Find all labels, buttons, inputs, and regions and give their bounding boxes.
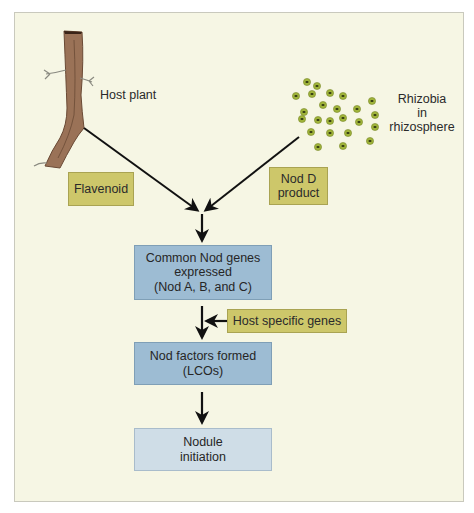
step-nod-factors-box: Nod factors formed (LCOs) [134,342,272,385]
step-common-nod-genes-box: Common Nod genes expressed (Nod A, B, an… [134,245,272,300]
rhizobia-bacteria-icon [292,78,378,150]
step-1-line-1: Common Nod genes [146,251,261,266]
step-2-line-1: Nod factors formed [150,349,256,364]
host-plant-label: Host plant [100,88,170,102]
flavenoid-box: Flavenoid [68,172,134,206]
step-nodule-initiation-box: Nodule initiation [134,428,272,471]
nod-d-label-line-2: product [278,186,320,200]
nod-d-label-line-1: Nod D [281,172,316,186]
nod-d-product-box: Nod D product [269,167,328,205]
step-2-line-2: (LCOs) [183,364,223,379]
step-3-line-2: initiation [180,450,226,465]
step-1-line-3: (Nod A, B, and C) [154,280,252,295]
step-3-line-1: Nodule [183,435,223,450]
rhizobia-label: Rhizobia in rhizosphere [380,92,464,134]
host-specific-genes-box: Host specific genes [227,309,347,333]
flavenoid-label: Flavenoid [74,182,128,196]
rhizobia-label-line-2: in [380,106,464,120]
host-specific-genes-label: Host specific genes [233,314,341,328]
step-1-line-2: expressed [174,265,232,280]
root-icon [34,31,94,168]
rhizobia-label-line-1: Rhizobia [380,92,464,106]
rhizobia-label-line-3: rhizosphere [380,120,464,134]
